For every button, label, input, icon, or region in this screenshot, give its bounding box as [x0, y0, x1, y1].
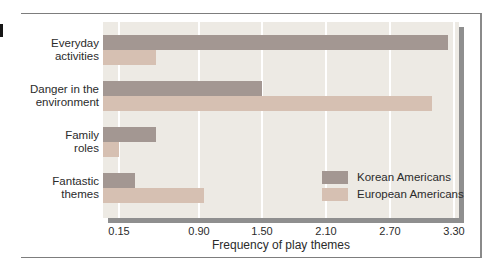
x-tick-2.10: 2.10 [315, 225, 336, 237]
x-tick-1.50: 1.50 [251, 225, 272, 237]
figure-margin-tab [0, 24, 3, 37]
page: Korean AmericansEuropean Americans Frequ… [0, 0, 503, 271]
x-axis-label: Frequency of play themes [103, 239, 459, 252]
x-tick-3.30: 3.30 [443, 225, 464, 237]
legend-label-korean-americans: Korean Americans [357, 171, 451, 183]
category-label-family-roles: Family roles [65, 129, 99, 155]
legend-item-korean-americans: Korean Americans [322, 170, 451, 184]
bar-european-americans-everyday-activities [103, 50, 156, 65]
bar-korean-americans-fantastic-themes [103, 173, 135, 188]
x-tick-2.70: 2.70 [379, 225, 400, 237]
category-label-everyday-activities: Everyday activities [51, 37, 99, 63]
plot-area: Korean AmericansEuropean Americans [103, 22, 459, 218]
category-label-danger-in-the-environment: Danger in the environment [30, 83, 99, 109]
bar-korean-americans-danger-in-the-environment [103, 81, 262, 96]
legend-label-european-americans: European Americans [357, 188, 464, 200]
bar-korean-americans-everyday-activities [103, 35, 448, 50]
bar-korean-americans-family-roles [103, 127, 156, 142]
legend-item-european-americans: European Americans [322, 187, 464, 201]
x-tick-0.90: 0.90 [188, 225, 209, 237]
legend-swatch-european-americans [322, 188, 348, 201]
bar-european-americans-family-roles [103, 142, 119, 157]
bar-european-americans-danger-in-the-environment [103, 96, 432, 111]
x-tick-0.15: 0.15 [108, 225, 129, 237]
category-label-fantastic-themes: Fantastic themes [52, 175, 99, 201]
bar-european-americans-fantastic-themes [103, 188, 204, 203]
legend-swatch-korean-americans [322, 171, 348, 184]
gridline-1.50 [261, 22, 263, 218]
